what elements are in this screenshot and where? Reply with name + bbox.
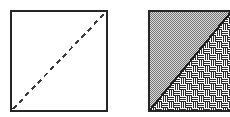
- left-panel: [11, 11, 107, 111]
- figure-svg: [0, 0, 230, 117]
- right-panel: [149, 12, 230, 111]
- figure-root: Square with diagonal — plain and hatched…: [0, 0, 230, 117]
